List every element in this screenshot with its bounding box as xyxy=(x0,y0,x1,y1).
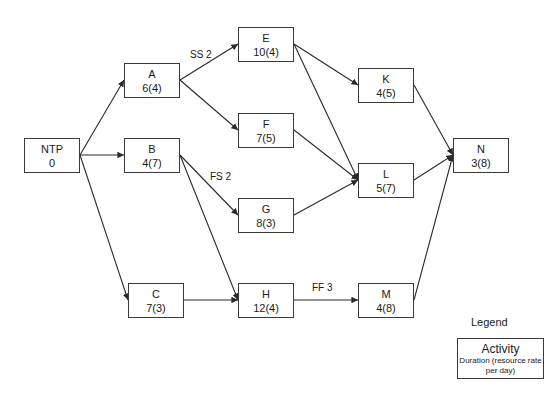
edge-k-to-n xyxy=(414,85,453,155)
node-duration: 7(5) xyxy=(256,131,276,145)
edge-a-to-f xyxy=(180,80,238,130)
node-ntp: NTP0 xyxy=(24,138,80,173)
node-label: M xyxy=(381,287,390,301)
edge-f-to-l xyxy=(294,130,358,180)
node-duration: 4(5) xyxy=(376,86,396,100)
edge-ntp-to-c xyxy=(80,155,128,300)
lag-label: SS 2 xyxy=(190,49,212,60)
legend-duration-label: Duration (resource rate per day) xyxy=(458,356,543,376)
node-a: A6(4) xyxy=(124,63,180,98)
node-duration: 10(4) xyxy=(253,45,279,59)
node-duration: 12(4) xyxy=(253,301,279,315)
lag-label: FF 3 xyxy=(312,282,333,293)
node-label: G xyxy=(262,202,271,216)
node-label: H xyxy=(262,287,270,301)
node-g: G8(3) xyxy=(238,198,294,233)
node-label: L xyxy=(383,167,389,181)
edge-g-to-l xyxy=(294,180,358,215)
node-label: K xyxy=(382,72,389,86)
node-label: C xyxy=(152,287,160,301)
node-c: C7(3) xyxy=(128,283,184,318)
node-f: F7(5) xyxy=(238,113,294,148)
node-n: N3(8) xyxy=(453,138,509,173)
node-label: NTP xyxy=(41,142,63,156)
node-duration: 4(8) xyxy=(376,301,396,315)
lag-label: FS 2 xyxy=(210,171,231,182)
node-k: K4(5) xyxy=(358,68,414,103)
node-label: F xyxy=(263,117,270,131)
node-label: E xyxy=(262,31,269,45)
node-h: H12(4) xyxy=(238,283,294,318)
node-label: N xyxy=(477,142,485,156)
node-duration: 5(7) xyxy=(376,181,396,195)
node-label: B xyxy=(148,142,155,156)
node-duration: 0 xyxy=(49,156,55,170)
legend-box: Activity Duration (resource rate per day… xyxy=(457,338,544,379)
node-duration: 8(3) xyxy=(256,216,276,230)
node-duration: 4(7) xyxy=(142,156,162,170)
node-duration: 7(3) xyxy=(146,301,166,315)
legend-title: Legend xyxy=(471,316,508,328)
edge-ntp-to-a xyxy=(80,80,124,155)
legend-activity-label: Activity xyxy=(458,342,543,356)
node-e: E10(4) xyxy=(238,27,294,62)
node-b: B4(7) xyxy=(124,138,180,173)
node-duration: 6(4) xyxy=(142,81,162,95)
node-m: M4(8) xyxy=(358,283,414,318)
node-label: A xyxy=(148,67,155,81)
node-l: L5(7) xyxy=(358,163,414,198)
edge-b-to-g xyxy=(180,155,238,215)
node-duration: 3(8) xyxy=(471,156,491,170)
